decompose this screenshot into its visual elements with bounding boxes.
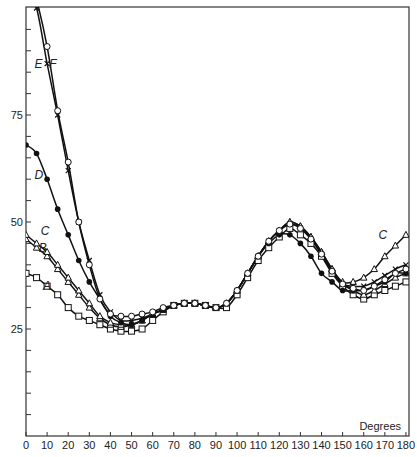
- plot-frame: [26, 7, 409, 436]
- marker-open-square: [392, 283, 398, 289]
- marker-open-circle: [392, 270, 398, 276]
- x-tick-label: 70: [168, 439, 180, 451]
- curve-d: [26, 145, 406, 325]
- marker-open-circle: [55, 108, 61, 114]
- x-axis-label: Degrees: [359, 420, 401, 432]
- marker-open-circle: [44, 44, 50, 50]
- marker-open-circle: [287, 221, 293, 227]
- series-label-b: B: [39, 241, 47, 255]
- marker-open-circle: [350, 285, 356, 291]
- marker-open-square: [403, 279, 409, 285]
- marker-open-circle: [371, 283, 377, 289]
- marker-open-circle: [107, 311, 113, 317]
- marker-open-circle: [255, 253, 261, 259]
- y-tick-label: 75: [11, 109, 23, 121]
- chart: 0102030405060708090100110120130140150160…: [0, 0, 417, 457]
- marker-open-circle: [139, 311, 145, 317]
- marker-open-circle: [76, 219, 82, 225]
- marker-open-square: [129, 328, 135, 334]
- marker-filled-circle: [308, 253, 314, 259]
- marker-open-circle: [65, 159, 71, 165]
- marker-open-triangle: [403, 231, 409, 237]
- x-tick-label: 140: [312, 439, 330, 451]
- marker-filled-circle: [319, 271, 325, 277]
- x-tick-label: 30: [83, 439, 95, 451]
- x-tick-label: 110: [249, 439, 267, 451]
- marker-open-circle: [181, 300, 187, 306]
- marker-open-square: [23, 270, 29, 276]
- x-tick-label: 170: [376, 439, 394, 451]
- x-tick-label: 180: [397, 439, 415, 451]
- x-tick-label: 80: [189, 439, 201, 451]
- marker-open-square: [65, 305, 71, 311]
- marker-filled-circle: [23, 142, 29, 148]
- x-tick-label: 0: [23, 439, 29, 451]
- marker-open-square: [34, 275, 40, 281]
- marker-open-circle: [403, 266, 409, 272]
- marker-open-circle: [213, 305, 219, 311]
- x-tick-label: 150: [333, 439, 351, 451]
- marker-filled-circle: [340, 288, 346, 294]
- marker-open-circle: [340, 281, 346, 287]
- marker-filled-circle: [55, 206, 61, 212]
- marker-open-circle: [224, 300, 230, 306]
- marker-open-square: [382, 287, 388, 293]
- marker-open-circle: [129, 313, 135, 319]
- marker-filled-circle: [65, 232, 71, 238]
- marker-open-square: [97, 322, 103, 328]
- x-tick-label: 120: [270, 439, 288, 451]
- marker-open-circle: [266, 238, 272, 244]
- marker-open-circle: [97, 296, 103, 302]
- x-tick-label: 60: [147, 439, 159, 451]
- axis-ticks: [26, 29, 406, 436]
- x-tick-label: 160: [355, 439, 373, 451]
- marker-open-circle: [361, 287, 367, 293]
- marker-open-circle: [118, 313, 124, 319]
- marker-open-square: [150, 317, 156, 323]
- series-label-e: E: [34, 57, 43, 71]
- data-markers: [23, 6, 409, 335]
- x-tick-label: 130: [291, 439, 309, 451]
- series-label-c: C: [378, 228, 387, 242]
- marker-filled-circle: [298, 241, 304, 247]
- marker-open-square: [76, 313, 82, 319]
- series-label-a: A: [42, 279, 51, 293]
- x-tick-label: 50: [125, 439, 137, 451]
- marker-open-triangle: [23, 231, 29, 237]
- x-tick-label: 90: [210, 439, 222, 451]
- marker-open-circle: [192, 300, 198, 306]
- marker-open-square: [297, 232, 303, 238]
- marker-open-square: [139, 326, 145, 332]
- marker-open-circle: [382, 277, 388, 283]
- marker-open-circle: [245, 270, 251, 276]
- marker-filled-circle: [87, 279, 93, 285]
- marker-open-square: [86, 317, 92, 323]
- marker-open-circle: [329, 268, 335, 274]
- x-tick-label: 40: [104, 439, 116, 451]
- marker-open-circle: [160, 305, 166, 311]
- marker-filled-circle: [44, 176, 50, 182]
- y-tick-label: 25: [11, 323, 23, 335]
- marker-open-circle: [297, 225, 303, 231]
- marker-open-circle: [86, 262, 92, 268]
- marker-open-circle: [202, 302, 208, 308]
- plot-border: [26, 7, 409, 436]
- series-label-d: D: [34, 168, 43, 182]
- marker-filled-circle: [34, 151, 40, 157]
- y-tick-label: 50: [11, 216, 23, 228]
- marker-filled-circle: [287, 232, 293, 238]
- marker-filled-circle: [329, 279, 335, 285]
- x-tick-label: 10: [41, 439, 53, 451]
- marker-open-circle: [150, 309, 156, 315]
- curve-e: [26, 0, 406, 321]
- marker-open-circle: [319, 251, 325, 257]
- marker-open-triangle: [361, 274, 367, 280]
- marker-open-circle: [171, 302, 177, 308]
- series-label-c: C: [41, 224, 50, 238]
- marker-open-circle: [308, 236, 314, 242]
- x-tick-label: 100: [228, 439, 246, 451]
- series-label-f: F: [49, 57, 57, 71]
- marker-open-circle: [234, 287, 240, 293]
- marker-open-square: [55, 292, 61, 298]
- data-curves: [26, 0, 406, 331]
